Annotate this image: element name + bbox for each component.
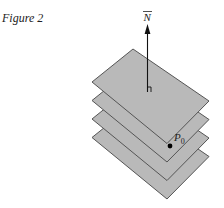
- point-p0: [168, 144, 173, 149]
- parallel-planes-diagram: N P0: [0, 0, 224, 208]
- normal-label: N: [143, 11, 152, 23]
- arrow-head-icon: [145, 24, 151, 34]
